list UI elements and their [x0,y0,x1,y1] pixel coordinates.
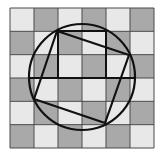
grid-cell [34,125,58,148]
grid-cell [10,8,34,31]
grid-cell [130,101,154,124]
grid-cell [106,78,130,101]
grid-cell [10,101,34,124]
grid-cell [34,8,58,31]
grid-cell [34,31,58,54]
grid-cell [10,125,34,148]
grid-cell [58,78,82,101]
grid-cell [106,125,130,148]
geometry-diagram [0,0,161,156]
grid-cell [130,125,154,148]
grid-cell [82,55,106,78]
grid-cell [10,31,34,54]
grid-cell [130,31,154,54]
grid-cell [58,55,82,78]
grid-cell [130,8,154,31]
grid-cell [106,8,130,31]
grid-cell [106,55,130,78]
grid-cell [82,78,106,101]
